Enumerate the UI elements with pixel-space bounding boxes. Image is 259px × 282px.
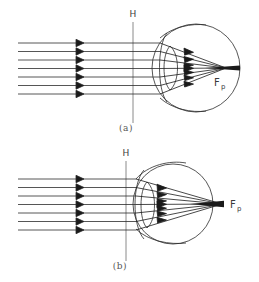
ray-incoming [18, 192, 136, 199]
ray-incoming [18, 184, 136, 191]
ray-incoming [18, 226, 136, 233]
incoming-rays-a [18, 39, 160, 97]
ray-incoming [18, 48, 160, 55]
principal-plane-a: H [130, 9, 137, 123]
panel-a-diagram: H [0, 0, 259, 141]
ray-incoming [18, 82, 160, 89]
ray-incoming [18, 39, 160, 46]
ray-incoming [18, 56, 160, 63]
focal-point-label-b: F p [230, 199, 242, 213]
focal-point-subscript-b: p [237, 205, 242, 213]
ray-incoming [18, 65, 160, 72]
figure-root: H [0, 0, 259, 282]
footer-text-fragment [0, 275, 259, 282]
ray-refracted [136, 188, 222, 205]
refracted-rays-b [136, 179, 224, 230]
ray-incoming [18, 175, 136, 182]
panel-caption-a: (a) [119, 123, 133, 133]
panel-caption-b: (b) [113, 261, 127, 271]
incoming-rays-b [18, 175, 136, 233]
ray-refracted [160, 68, 226, 77]
ray-incoming [18, 73, 160, 80]
panel-b-diagram: H [0, 141, 259, 282]
ray-incoming [18, 209, 136, 216]
ray-refracted [136, 204, 222, 222]
ray-incoming [18, 218, 136, 225]
principal-plane-label-b: H [123, 148, 130, 158]
principal-plane-label-a: H [130, 9, 137, 19]
cornea-lower-a [160, 98, 206, 111]
ray-incoming [18, 90, 160, 97]
focal-point-letter-b: F [230, 199, 236, 210]
ray-refracted [136, 204, 222, 230]
cornea-a [160, 25, 206, 38]
ray-incoming [18, 201, 136, 208]
focal-point-subscript-a: p [221, 83, 226, 91]
refracted-rays-a [160, 43, 240, 94]
focal-point-letter-a: F [214, 77, 220, 88]
focal-point-label-a: F p [214, 77, 226, 91]
